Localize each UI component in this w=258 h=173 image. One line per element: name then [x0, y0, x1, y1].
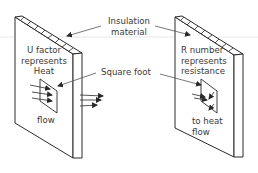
- to-heat-flow-label: to heat flow: [192, 116, 223, 137]
- to-heat-line-1: to heat: [192, 116, 223, 127]
- r-number-line-1: R number: [181, 45, 227, 56]
- square-foot-label: Square foot: [101, 67, 151, 78]
- u-factor-line-1: U factor: [19, 45, 69, 56]
- u-factor-line-3: Heat: [19, 66, 69, 77]
- heat-flow-label: flow: [37, 115, 55, 126]
- insulation-label-line-2: material: [103, 27, 155, 38]
- u-factor-line-2: represents: [19, 56, 69, 67]
- insulation-material-label: Insulation material: [103, 16, 155, 37]
- r-number-label: R number represents resistance: [181, 45, 227, 77]
- r-number-line-3: resistance: [181, 66, 227, 77]
- to-heat-line-2: flow: [192, 127, 223, 138]
- r-number-line-2: represents: [181, 56, 227, 67]
- insulation-label-line-1: Insulation: [103, 16, 155, 27]
- u-factor-label: U factor represents Heat: [19, 45, 69, 77]
